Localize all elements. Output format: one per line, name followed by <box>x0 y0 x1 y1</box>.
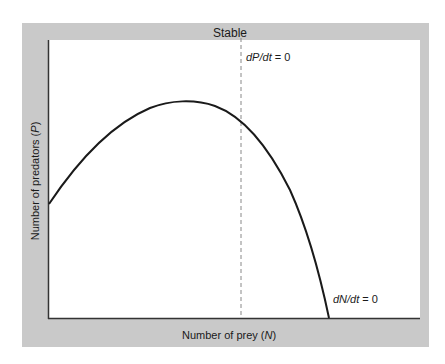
plot-background <box>48 40 420 319</box>
y-label-var: P <box>29 125 41 132</box>
dp-dt-label: dP/dt = 0 <box>246 51 290 63</box>
y-label-close: ) <box>29 122 41 126</box>
x-axis-label: Number of prey (N) <box>182 329 276 341</box>
y-axis-label: Number of predators (P) <box>29 122 41 241</box>
x-label-close: ) <box>272 329 276 341</box>
dn-dt-var: dN/dt <box>333 293 359 305</box>
y-label-text: Number of predators ( <box>29 133 41 241</box>
dp-dt-var: dP/dt <box>246 51 272 63</box>
x-label-text: Number of prey ( <box>182 329 265 341</box>
chart-title: Stable <box>213 26 247 40</box>
plot-area <box>0 0 445 364</box>
dn-dt-eq: = 0 <box>359 293 378 305</box>
dn-dt-label: dN/dt = 0 <box>333 293 378 305</box>
dp-dt-eq: = 0 <box>272 51 291 63</box>
